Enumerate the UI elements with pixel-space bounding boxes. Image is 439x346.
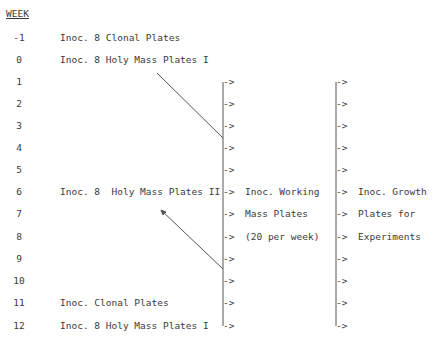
arrow-icon: -> <box>336 231 347 243</box>
growth-plates-label: Plates for <box>358 208 415 220</box>
arrow-icon: -> <box>336 98 347 110</box>
arrow-icon: -> <box>223 297 234 309</box>
working-mass-plates-label: (20 per week) <box>245 231 319 243</box>
arrow-icon: -> <box>223 186 234 198</box>
arrow-icon: -> <box>336 186 347 198</box>
arrow-icon: -> <box>223 76 234 88</box>
arrow-icon: -> <box>223 275 234 287</box>
arrow-icon: -> <box>336 120 347 132</box>
arrow-icon: -> <box>223 142 234 154</box>
working-mass-plates-label: Mass Plates <box>245 208 308 220</box>
arrow-icon: -> <box>223 98 234 110</box>
arrow-icon: -> <box>336 275 347 287</box>
arrow-icon: -> <box>223 253 234 265</box>
arrow-icon: -> <box>223 320 234 332</box>
arrow-icon: -> <box>336 297 347 309</box>
arrow-icon: -> <box>223 231 234 243</box>
arrow-icon: -> <box>336 76 347 88</box>
arrow-icon: -> <box>223 164 234 176</box>
working-mass-plates-label: Inoc. Working <box>245 186 319 198</box>
arrow-icon: -> <box>336 164 347 176</box>
arrow-icon: -> <box>223 208 234 220</box>
arrow-icon: -> <box>336 208 347 220</box>
growth-plates-label: Inoc. Growth <box>358 186 427 198</box>
arrow-icon: -> <box>336 320 347 332</box>
arrow-icon: -> <box>336 142 347 154</box>
arrow-icon: -> <box>223 120 234 132</box>
growth-plates-label: Experiments <box>358 231 421 243</box>
arrow-icon: -> <box>336 253 347 265</box>
flow-diagram-lines <box>0 0 439 346</box>
